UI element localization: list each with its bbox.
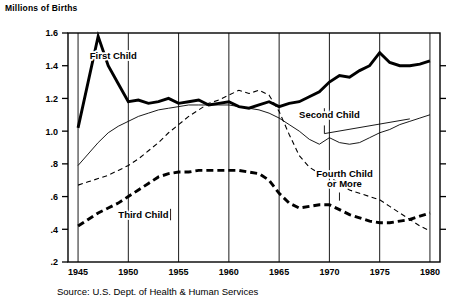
- x-tick-label-1980: 1980: [420, 267, 440, 277]
- y-tick-label-0.2: .2: [50, 257, 58, 267]
- y-axis-tick-labels: 1.61.41.21.0.8.6.4.2: [45, 28, 58, 267]
- y-tick-label-0.6: .6: [50, 192, 58, 202]
- chart-plot-area: 1.61.41.21.0.8.6.4.2 1945195019551960196…: [0, 0, 456, 283]
- annotation-first-child: First Child: [90, 50, 137, 61]
- x-tick-label-1975: 1975: [370, 267, 390, 277]
- y-tick-label-1.6: 1.6: [45, 28, 58, 38]
- y-tick-label-1.4: 1.4: [45, 61, 58, 71]
- x-tick-label-1960: 1960: [219, 267, 239, 277]
- gridlines: [78, 33, 430, 262]
- series-annotations: First ChildFirst ChildSecond ChildSecond…: [90, 50, 373, 220]
- x-tick-label-1950: 1950: [118, 267, 138, 277]
- plot-border: [68, 33, 440, 262]
- axis-title: Millions of Births: [5, 3, 78, 13]
- x-axis-tick-labels: 19451950195519601965197019751980: [68, 267, 440, 277]
- y-tick-label-1: 1.0: [45, 127, 58, 137]
- annotation-second-child: Second Child: [299, 109, 360, 120]
- annotation-or-more: or More: [327, 178, 362, 189]
- y-tick-label-0.8: .8: [50, 159, 58, 169]
- y-tick-label-1.2: 1.2: [45, 94, 58, 104]
- x-tick-label-1965: 1965: [269, 267, 289, 277]
- births-by-birth-order-chart: Millions of Births 1.61.41.21.0.8.6.4.2 …: [0, 0, 456, 303]
- x-tick-label-1970: 1970: [319, 267, 339, 277]
- annotation-third-child: Third Child: [118, 209, 168, 220]
- source-note: Source: U.S. Dept. of Health & Human Ser…: [57, 286, 258, 297]
- y-axis-ticks: [62, 33, 446, 262]
- x-tick-label-1945: 1945: [68, 267, 88, 277]
- series-line-second-child: [78, 105, 430, 166]
- data-series-group: [78, 36, 430, 231]
- plot-frame: [68, 33, 440, 262]
- y-tick-label-0.4: .4: [50, 225, 58, 235]
- x-tick-label-1955: 1955: [169, 267, 189, 277]
